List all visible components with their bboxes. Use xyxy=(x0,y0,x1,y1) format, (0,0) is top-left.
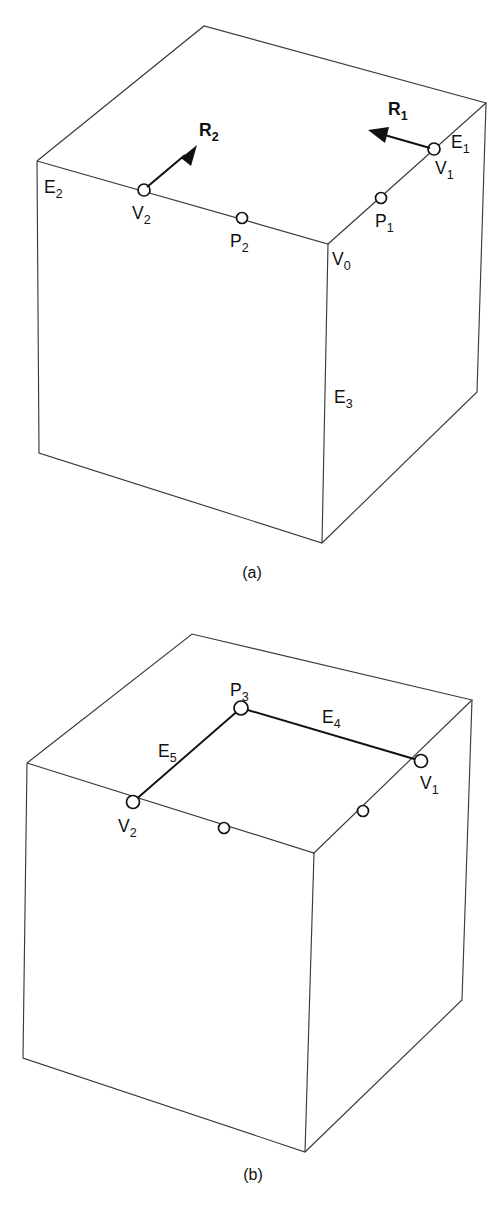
caption-a: (a) xyxy=(242,564,262,581)
figure-page: R1 R2 E1 E2 E3 V0 V1 V2 P1 P2 (a) xyxy=(0,0,504,1208)
vertex-v2-b xyxy=(127,796,140,809)
vertex-v1-b xyxy=(415,755,428,768)
vertex-p1-a xyxy=(376,193,387,204)
panel-a-diagram: R1 R2 E1 E2 E3 V0 V1 V2 P1 P2 (a) xyxy=(0,0,504,604)
vertex-v1-a xyxy=(428,143,440,155)
caption-b: (b) xyxy=(243,1166,263,1183)
vertex-unlabeled-left-b xyxy=(219,823,230,834)
vertex-p2-a xyxy=(237,213,248,224)
vertex-unlabeled-right-b xyxy=(358,806,369,817)
panel-b-diagram: P3 E4 E5 V1 V2 (b) xyxy=(0,604,504,1208)
